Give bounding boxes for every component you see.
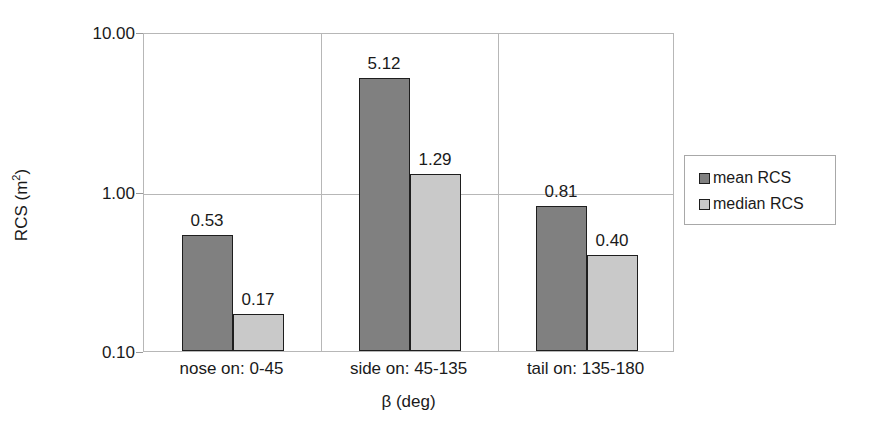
x-category-label: nose on: 0-45 <box>143 359 320 379</box>
category-divider <box>321 34 322 351</box>
legend-swatch-median-icon <box>699 199 710 210</box>
legend-item-median[interactable]: median RCS <box>699 191 835 217</box>
bar-value-label: 5.12 <box>349 55 420 72</box>
y-axis-ticks: 10.001.000.10 <box>43 33 135 352</box>
bar-median <box>587 255 638 351</box>
bar-mean <box>536 206 587 351</box>
chart-figure: RCS (m2) 10.001.000.10 0.530.175.121.290… <box>0 0 878 433</box>
x-category-label: tail on: 135-180 <box>497 359 674 379</box>
y-axis-title-exponent: 2 <box>10 175 22 181</box>
legend-swatch-mean-icon <box>699 173 710 184</box>
bar-value-label: 1.29 <box>400 151 471 168</box>
y-axis-title-base: RCS (m <box>12 181 31 241</box>
legend-label: median RCS <box>713 195 804 213</box>
y-tick-label: 0.10 <box>55 344 135 361</box>
category-divider <box>498 34 499 351</box>
bar-value-label: 0.53 <box>172 212 243 229</box>
plot-area: 0.530.175.121.290.810.40 <box>143 33 674 352</box>
legend-item-mean[interactable]: mean RCS <box>699 165 835 191</box>
legend: mean RCSmedian RCS <box>684 155 836 225</box>
x-category-label: side on: 45-135 <box>320 359 497 379</box>
bar-mean <box>359 78 410 351</box>
y-axis-title-tail: ) <box>12 169 31 175</box>
y-tick-label: 1.00 <box>55 184 135 201</box>
y-tick-mark <box>136 352 143 353</box>
bar-median <box>410 174 461 351</box>
y-tick-label: 10.00 <box>55 25 135 42</box>
legend-label: mean RCS <box>713 169 791 187</box>
y-tick-mark <box>136 33 143 34</box>
bar-value-label: 0.17 <box>223 291 294 308</box>
x-axis-title: β (deg) <box>143 392 674 412</box>
bar-value-label: 0.40 <box>577 232 648 249</box>
bar-value-label: 0.81 <box>526 183 597 200</box>
bar-median <box>233 314 284 351</box>
y-tick-mark <box>136 193 143 194</box>
